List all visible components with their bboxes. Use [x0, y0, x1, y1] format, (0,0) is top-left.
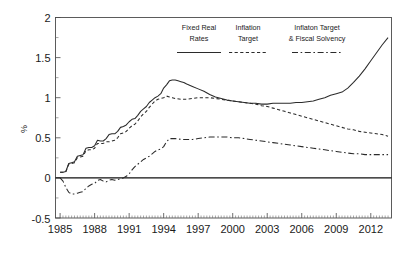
x-tick-label: 1985	[48, 223, 72, 235]
y-axis-title: %	[19, 125, 29, 133]
y-tick-label: 0.5	[35, 132, 50, 144]
chart-figure: -0.500.511.52 19851988199119941997200020…	[0, 0, 407, 262]
line-chart: -0.500.511.52 19851988199119941997200020…	[0, 0, 407, 262]
x-tick-label: 1991	[117, 223, 141, 235]
x-tick-label: 2012	[359, 223, 383, 235]
y-tick-label: 0	[44, 172, 50, 184]
chart-legend: Fixed Real Rates Inflation Target Inflat…	[177, 23, 346, 53]
legend-label-1-line2: Target	[238, 34, 258, 43]
x-tick-label: 1988	[82, 223, 106, 235]
legend-label-2-line1: Inflaton Target	[294, 23, 339, 32]
y-tick-label: 1	[44, 92, 50, 104]
x-tick-label: 2000	[220, 223, 244, 235]
y-tick-label: 1.5	[35, 52, 50, 64]
x-tick-label: 1997	[186, 223, 210, 235]
x-tick-label: 2009	[324, 223, 348, 235]
x-tick-label: 2006	[290, 223, 314, 235]
data-series-group	[60, 38, 388, 194]
x-tick-label: 1994	[151, 223, 175, 235]
y-axis-ticks: -0.500.511.52	[32, 12, 61, 225]
x-tick-label: 2003	[255, 223, 279, 235]
series-line-2	[60, 137, 388, 194]
legend-label-2-line2: & Fiscal Solvency	[289, 34, 346, 43]
plot-frame	[56, 18, 392, 219]
legend-label-0-line2: Rates	[190, 34, 209, 43]
legend-label-1-line1: Inflation	[235, 23, 260, 32]
y-tick-label: 2	[44, 12, 50, 24]
legend-label-0-line1: Fixed Real	[182, 23, 217, 32]
